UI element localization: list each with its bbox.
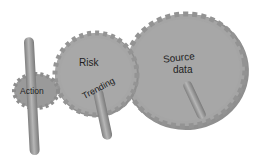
gears-graphic — [0, 0, 259, 164]
source-label-line2: data — [173, 65, 192, 75]
risk-label: Risk — [79, 58, 98, 68]
action-label: Action — [20, 87, 44, 96]
gear-diagram: Action Risk Trending Source data — [0, 0, 259, 164]
